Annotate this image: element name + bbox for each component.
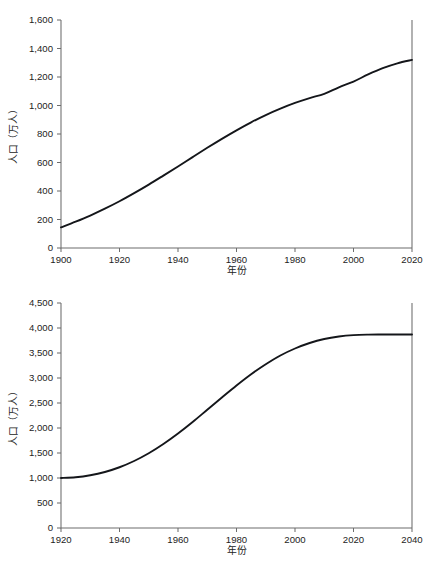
- top-axis-ticks: [57, 20, 412, 252]
- x-tick-label: 1920: [109, 254, 130, 265]
- y-tick-label: 1,000: [29, 100, 53, 111]
- top-x-axis-title: 年份: [227, 264, 247, 276]
- x-tick-label: 1960: [167, 534, 188, 545]
- top-y-axis-title: 人口（万人）: [8, 104, 19, 164]
- bottom-y-axis-title: 人口（万人）: [8, 386, 19, 446]
- x-tick-label: 1940: [167, 254, 188, 265]
- x-tick-label: 1980: [226, 534, 247, 545]
- y-tick-label: 4,500: [29, 297, 53, 308]
- bottom-population-curve: [61, 334, 412, 478]
- y-tick-label: 1,000: [29, 472, 53, 483]
- y-tick-label: 800: [37, 128, 53, 139]
- y-tick-label: 1,400: [29, 43, 53, 54]
- x-tick-label: 1940: [109, 534, 130, 545]
- y-tick-label: 0: [48, 242, 53, 253]
- y-tick-label: 600: [37, 157, 53, 168]
- chart-bottom-svg: 05001,0001,5002,0002,5003,0003,5004,0004…: [0, 285, 433, 575]
- x-tick-label: 1960: [226, 254, 247, 265]
- y-tick-label: 500: [37, 497, 53, 508]
- x-tick-label: 2020: [401, 254, 422, 265]
- y-tick-label: 1,500: [29, 447, 53, 458]
- top-population-curve: [61, 60, 412, 227]
- x-tick-label: 2000: [343, 254, 364, 265]
- y-tick-label: 2,000: [29, 422, 53, 433]
- top-plot-spines: [61, 20, 412, 248]
- x-tick-label: 2040: [401, 534, 422, 545]
- y-tick-label: 200: [37, 214, 53, 225]
- population-chart-top: 02004006008001,0001,2001,4001,6001900192…: [0, 0, 433, 290]
- x-tick-label: 2020: [343, 534, 364, 545]
- y-tick-label: 400: [37, 185, 53, 196]
- y-tick-label: 1,600: [29, 14, 53, 25]
- x-tick-label: 2000: [284, 534, 305, 545]
- bottom-x-axis-title: 年份: [227, 544, 247, 556]
- x-tick-label: 1920: [50, 534, 71, 545]
- bottom-plot-spines: [61, 303, 412, 528]
- y-tick-label: 3,500: [29, 347, 53, 358]
- population-chart-bottom: 05001,0001,5002,0002,5003,0003,5004,0004…: [0, 285, 433, 575]
- top-axis-labels: 02004006008001,0001,2001,4001,6001900192…: [29, 14, 423, 265]
- y-tick-label: 3,000: [29, 372, 53, 383]
- x-tick-label: 1900: [50, 254, 71, 265]
- y-tick-label: 0: [48, 522, 53, 533]
- chart-top-svg: 02004006008001,0001,2001,4001,6001900192…: [0, 0, 433, 290]
- x-tick-label: 1980: [284, 254, 305, 265]
- y-tick-label: 4,000: [29, 322, 53, 333]
- y-tick-label: 1,200: [29, 71, 53, 82]
- y-tick-label: 2,500: [29, 397, 53, 408]
- bottom-axis-ticks: [57, 303, 412, 532]
